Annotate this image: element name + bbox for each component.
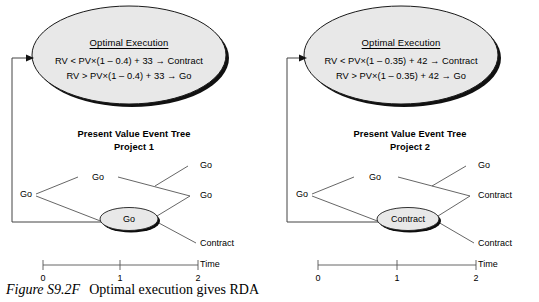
branch-left-to-root <box>312 196 380 222</box>
branch-root-up <box>438 196 470 216</box>
branch-upper-up-leaf <box>155 166 188 186</box>
branch-root-up <box>157 196 190 216</box>
figure-caption: Figure S9.2FOptimal execution gives RDA <box>6 282 259 298</box>
panel-project-2: Optimal Execution RV < PV×(1 – 0.35) + 4… <box>270 0 539 280</box>
tree-upper-node-label: Go <box>369 173 381 182</box>
leaf-label-2: Go <box>200 191 212 200</box>
root-node-label: Go <box>123 215 135 224</box>
leaf-label-3: Contract <box>200 239 234 248</box>
figure-caption-text: Optimal execution gives RDA <box>89 282 259 297</box>
tree-left-label: Go <box>20 190 32 199</box>
bubble-formula-line-2: RV > PV×(1 – 0.35) + 42 → Go <box>336 72 466 81</box>
branch-root-down <box>157 222 196 243</box>
branch-left-to-root <box>36 196 103 222</box>
tree-left-label: Go <box>296 190 308 199</box>
tree-title-line-2: Project 1 <box>114 143 154 152</box>
optimal-execution-bubble <box>304 6 498 104</box>
branch-upper-to-leaf1 <box>398 177 470 196</box>
axis-tick-label-1: 1 <box>394 274 399 283</box>
axis-title-time: Time <box>478 260 498 269</box>
leaf-label-3: Contract <box>478 239 512 248</box>
optimal-execution-bubble <box>32 6 226 104</box>
leaf-label-1: Go <box>200 161 212 170</box>
bubble-title: Optimal Execution <box>90 38 169 48</box>
leaf-label-1: Go <box>478 161 490 170</box>
bubble-title: Optimal Execution <box>362 38 441 48</box>
tree-upper-node-label: Go <box>92 173 104 182</box>
axis-title-time: Time <box>200 260 220 269</box>
panel-project-1: Optimal Execution RV < PV×(1 – 0.4) + 33… <box>0 0 270 280</box>
figure-caption-label: Figure S9.2F <box>6 282 80 297</box>
tree-title-line-1: Present Value Event Tree <box>78 130 191 139</box>
axis-tick-label-0: 0 <box>315 274 320 283</box>
branch-upper-up-leaf <box>432 166 466 186</box>
tree-title-line-2: Project 2 <box>390 143 430 152</box>
axis-tick-label-2: 2 <box>473 274 478 283</box>
leaf-label-2: Contract <box>478 191 512 200</box>
branch-left-up <box>36 177 78 194</box>
figure-container: Optimal Execution RV < PV×(1 – 0.4) + 33… <box>0 0 539 302</box>
branch-left-up <box>312 177 354 194</box>
bubble-formula-line-1: RV < PV×(1 – 0.35) + 42 → Contract <box>324 57 477 66</box>
branch-root-down <box>438 222 474 243</box>
root-node-label: Contract <box>391 215 425 224</box>
bubble-formula-line-2: RV > PV×(1 – 0.4) + 33 → Go <box>67 72 192 81</box>
tree-title-line-1: Present Value Event Tree <box>354 130 467 139</box>
bubble-formula-line-1: RV < PV×(1 – 0.4) + 33 → Contract <box>55 57 203 66</box>
branch-upper-to-leaf1 <box>118 177 190 196</box>
